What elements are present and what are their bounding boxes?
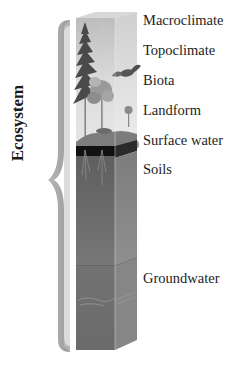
label-macroclimate: Macroclimate (143, 12, 224, 28)
subsoil-front (76, 156, 115, 266)
ecosystem-bracket-label: Ecosystem (8, 68, 28, 178)
label-biota: Biota (143, 72, 174, 88)
subsoil-side (115, 151, 137, 266)
ecosystem-bracket (48, 20, 70, 352)
label-surface-water: Surface water (143, 132, 223, 148)
label-soils: Soils (143, 161, 172, 177)
label-topoclimate: Topoclimate (143, 42, 215, 58)
groundwater-side (115, 258, 137, 350)
groundwater-front (76, 266, 115, 350)
atmosphere-side (115, 12, 137, 146)
label-landform: Landform (143, 102, 201, 118)
label-groundwater: Groundwater (143, 270, 220, 286)
